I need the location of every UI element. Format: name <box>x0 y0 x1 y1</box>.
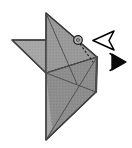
paper-right-edge-shadow <box>96 57 97 92</box>
origami-illustration <box>0 0 132 148</box>
fold-arrow-icon <box>93 31 114 50</box>
paper-model <box>12 13 97 140</box>
fold-origin-loop-inner-icon <box>76 38 79 41</box>
turn-over-arrow-icon <box>110 54 126 71</box>
origami-diagram: Origami fold step diagram Stylised bird … <box>0 0 132 148</box>
